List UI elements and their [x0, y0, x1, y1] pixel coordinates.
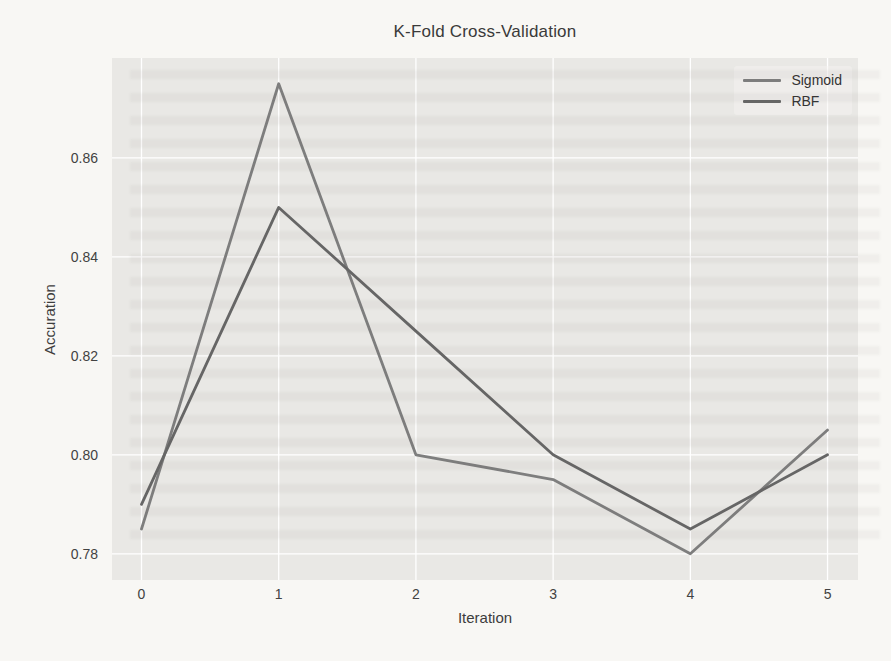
x-axis-label: Iteration: [112, 609, 858, 629]
series-line-rbf: [141, 207, 827, 529]
chart-title: K-Fold Cross-Validation: [112, 22, 858, 44]
legend-label-rbf: RBF: [791, 94, 819, 108]
y-tick-label: 0.84: [52, 249, 98, 265]
legend-line-rbf-swatch: [743, 100, 781, 103]
y-tick-label: 0.82: [52, 348, 98, 364]
x-tick-label: 1: [259, 586, 299, 602]
plot-area: Sigmoid RBF: [112, 58, 858, 580]
y-tick-label: 0.86: [52, 150, 98, 166]
plot-canvas: [112, 58, 858, 580]
x-tick-label: 4: [670, 586, 710, 602]
kfold-chart-figure: K-Fold Cross-Validation Accuration Sigmo…: [0, 0, 891, 661]
legend: Sigmoid RBF: [734, 66, 852, 115]
y-axis-label: Accuration: [41, 284, 58, 355]
y-axis-label-wrap: Accuration: [38, 58, 60, 580]
y-tick-label: 0.78: [52, 546, 98, 562]
x-tick-label: 3: [533, 586, 573, 602]
series-line-sigmoid: [141, 84, 827, 554]
x-tick-label: 0: [121, 586, 161, 602]
legend-item-rbf: RBF: [743, 94, 842, 108]
legend-label-sigmoid: Sigmoid: [791, 73, 842, 87]
legend-line-sigmoid-swatch: [743, 79, 781, 82]
y-tick-label: 0.80: [52, 447, 98, 463]
x-tick-label: 5: [808, 586, 848, 602]
scanned-page: K-Fold Cross-Validation Accuration Sigmo…: [0, 0, 891, 661]
legend-item-sigmoid: Sigmoid: [743, 73, 842, 87]
x-tick-label: 2: [396, 586, 436, 602]
